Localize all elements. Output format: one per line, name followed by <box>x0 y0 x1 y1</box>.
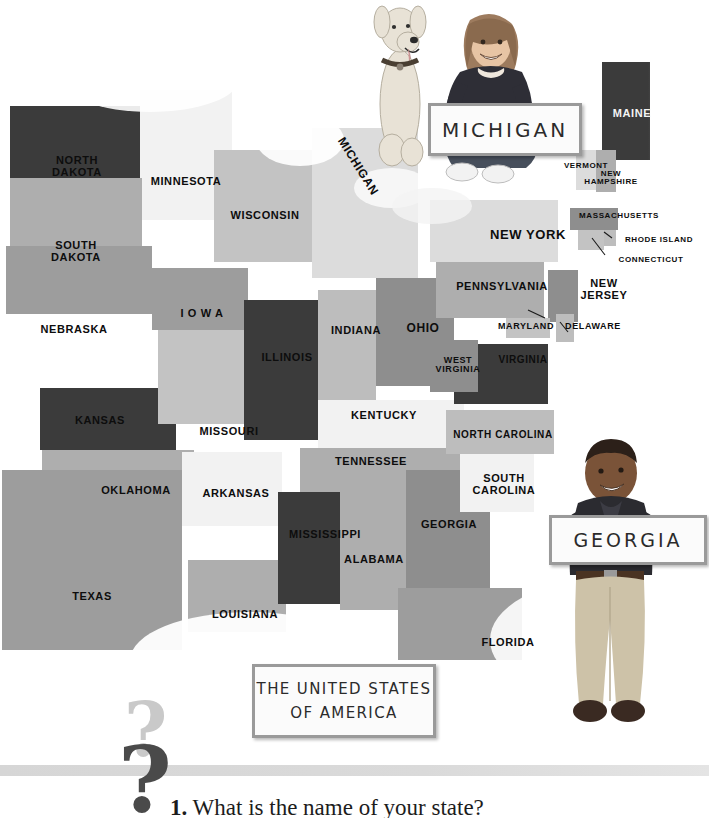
photo-girl-with-dog <box>352 0 567 200</box>
question-line: 1. What is the name of your state? <box>170 795 690 818</box>
state-shape-maine <box>602 62 650 160</box>
state-shape-illinois <box>244 300 320 440</box>
sign-georgia: GEORGIA <box>549 515 707 565</box>
state-shape-florida <box>398 588 522 660</box>
state-label-new-jersey: NEW JERSEY <box>574 278 634 301</box>
united-states-map: NORTH DAKOTAMINNESOTASOUTH DAKOTANEBRASK… <box>0 0 709 760</box>
sign-title: THE UNITED STATES OF AMERICA <box>252 664 436 738</box>
state-shape-new-york <box>430 200 558 262</box>
section-divider-bar <box>0 765 709 776</box>
photo-boy <box>556 437 666 737</box>
sign-title-line1: THE UNITED STATES <box>257 677 432 701</box>
state-shape-wisconsin <box>214 150 324 262</box>
state-shape-iowa <box>152 268 248 330</box>
state-shape-massachusetts <box>570 208 618 230</box>
sign-michigan-text: MICHIGAN <box>442 118 568 142</box>
state-shape-connecticut <box>578 230 604 250</box>
sign-georgia-text: GEORGIA <box>573 529 682 551</box>
question-text: What is the name of your state? <box>193 795 484 818</box>
state-shape-west-virginia <box>430 340 478 392</box>
state-shape-vermont <box>576 150 596 190</box>
state-shape-pennsylvania <box>436 262 544 318</box>
state-shape-south-carolina <box>460 450 534 512</box>
state-shape-maryland <box>506 318 550 338</box>
state-shape-delaware <box>556 314 574 342</box>
state-shape-nebraska <box>6 246 152 314</box>
state-shape-kansas <box>40 388 176 450</box>
state-shape-north-carolina <box>446 410 554 454</box>
state-shape-new-hampshire <box>596 150 616 192</box>
state-label-connecticut: CONNECTICUT <box>612 256 690 264</box>
state-shape-north-dakota <box>10 106 140 178</box>
state-shape-rhode-island <box>604 230 616 246</box>
state-shape-south-dakota <box>10 178 142 246</box>
state-shape-texas <box>2 470 182 650</box>
state-shape-mississippi <box>278 492 340 604</box>
sign-michigan: MICHIGAN <box>428 103 582 156</box>
sign-title-line2: OF AMERICA <box>290 701 397 725</box>
state-label-nebraska: NEBRASKA <box>12 324 136 336</box>
state-shape-louisiana <box>188 560 286 632</box>
worksheet-page: NORTH DAKOTAMINNESOTASOUTH DAKOTANEBRASK… <box>0 0 709 818</box>
state-shape-alabama <box>340 492 406 610</box>
question-number: 1. <box>170 795 187 818</box>
state-shape-arkansas <box>182 452 282 526</box>
state-label-rhode-island: RHODE ISLAND <box>620 236 698 244</box>
state-shape-indiana <box>318 290 376 410</box>
